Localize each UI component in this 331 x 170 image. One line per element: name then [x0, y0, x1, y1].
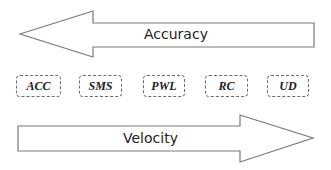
method-label: UD	[279, 79, 296, 94]
method-box-acc: ACC	[16, 75, 61, 97]
method-box-rc: RC	[205, 75, 248, 97]
method-label: SMS	[88, 79, 112, 94]
accuracy-label: Accuracy	[144, 26, 208, 42]
method-box-ud: UD	[267, 75, 309, 97]
method-box-pwl: PWL	[143, 75, 185, 97]
method-box-sms: SMS	[79, 75, 122, 97]
method-label: ACC	[26, 79, 50, 94]
method-label: PWL	[151, 79, 176, 94]
method-label: RC	[218, 79, 234, 94]
velocity-label: Velocity	[123, 130, 178, 146]
